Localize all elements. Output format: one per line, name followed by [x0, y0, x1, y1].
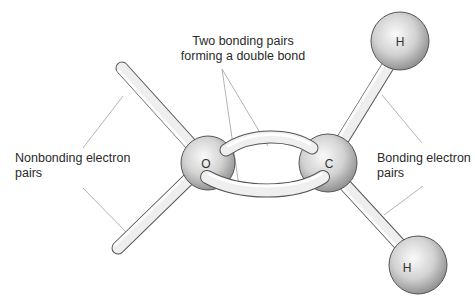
bonding-label-line1: Bonding electron: [377, 151, 475, 166]
bonding-label: Bonding electron pairs: [377, 151, 475, 181]
nonbonding-stub-upper: [119, 68, 198, 153]
leader-line-bonding-lower: [384, 186, 423, 215]
double-bond-upper: [226, 134, 312, 150]
nonbonding-label-line2: pairs: [15, 166, 155, 181]
atom-h-upper-label: H: [396, 35, 405, 49]
double-bond-label-line1: Two bonding pairs: [148, 34, 338, 49]
nonbonding-label-line1: Nonbonding electron: [15, 151, 155, 166]
bonding-label-line2: pairs: [377, 166, 475, 181]
atom-h-lower-label: H: [403, 261, 412, 275]
leader-line-nonbonding-upper: [83, 96, 123, 148]
nonbonding-stub-lower: [115, 171, 196, 248]
leader-line-nonbonding-lower: [83, 188, 128, 234]
double-bond-label-line2: forming a double bond: [148, 49, 338, 64]
nonbonding-label: Nonbonding electron pairs: [15, 151, 155, 181]
atom-c-label: C: [325, 157, 334, 171]
atom-o-label: O: [201, 157, 210, 171]
double-bond-label: Two bonding pairs forming a double bond: [148, 34, 338, 64]
atom-h-upper: H: [371, 12, 429, 70]
atom-h-lower: H: [389, 236, 447, 294]
leader-line-bonding-upper: [382, 95, 422, 143]
